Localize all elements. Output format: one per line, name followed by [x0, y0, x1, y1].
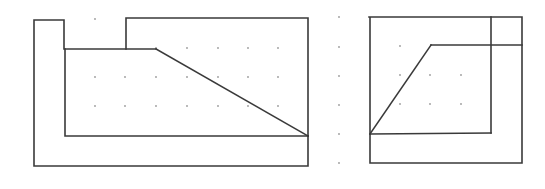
grid-dot [429, 74, 431, 76]
grid-dot [277, 76, 279, 78]
raised-block-outline [126, 18, 308, 136]
grid-dot [338, 104, 340, 106]
grid-dot [217, 105, 219, 107]
sloped-face-edge [156, 49, 308, 136]
grid-dot [124, 76, 126, 78]
grid-dot [155, 105, 157, 107]
drawing-canvas [0, 0, 545, 189]
grid-dot [338, 133, 340, 135]
grid-dot [155, 76, 157, 78]
grid-dot [460, 74, 462, 76]
grid-dots [94, 16, 462, 164]
grid-dot [399, 74, 401, 76]
technical-drawing [0, 0, 545, 189]
inner-bottom-edge [65, 49, 308, 136]
grid-dot [277, 105, 279, 107]
grid-dot [338, 75, 340, 77]
grid-dot [338, 16, 340, 18]
grid-dot [94, 76, 96, 78]
grid-dot [399, 45, 401, 47]
outer-l-bracket [34, 20, 308, 166]
grid-dot [217, 76, 219, 78]
grid-dot [247, 47, 249, 49]
inner-bottom-edge [370, 133, 491, 134]
grid-dot [338, 162, 340, 164]
sloped-face-edge [370, 45, 431, 134]
grid-dot [247, 76, 249, 78]
grid-dot [460, 103, 462, 105]
side-view [369, 17, 522, 163]
grid-dot [186, 105, 188, 107]
grid-dot [247, 105, 249, 107]
outer-boundary [369, 17, 522, 163]
grid-dot [94, 105, 96, 107]
grid-dot [338, 46, 340, 48]
grid-dot [429, 103, 431, 105]
front-view [34, 18, 308, 166]
grid-dot [217, 47, 219, 49]
grid-dot [399, 103, 401, 105]
grid-dot [186, 47, 188, 49]
grid-dot [94, 18, 96, 20]
grid-dot [186, 76, 188, 78]
grid-dot [277, 47, 279, 49]
grid-dot [124, 105, 126, 107]
